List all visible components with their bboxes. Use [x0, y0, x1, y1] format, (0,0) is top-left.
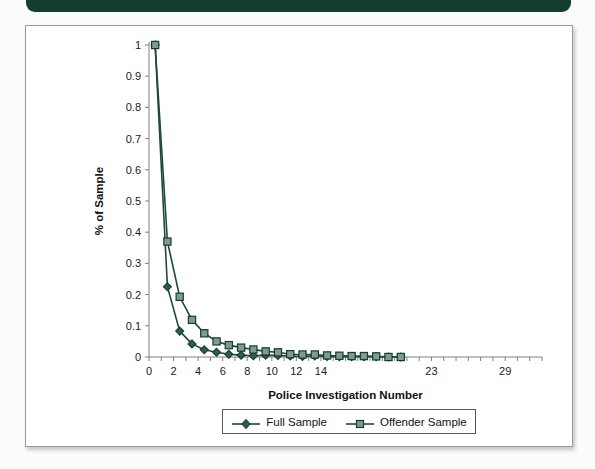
- x-tick-label: 6: [220, 365, 226, 377]
- data-point-marker: [176, 293, 183, 300]
- data-point-marker: [299, 351, 306, 358]
- y-axis-ticks: 00.10.20.30.40.50.60.70.80.91: [126, 39, 149, 363]
- header-accent-bar: [26, 0, 571, 12]
- data-point-marker: [237, 351, 245, 359]
- y-tick-label: 0.1: [126, 320, 141, 332]
- data-point-marker: [323, 352, 330, 359]
- y-tick-label: 0.8: [126, 101, 141, 113]
- data-point-marker: [373, 353, 380, 360]
- data-point-marker: [213, 338, 220, 345]
- data-point-marker: [200, 346, 208, 354]
- data-point-marker: [213, 348, 221, 356]
- data-point-marker: [201, 330, 208, 337]
- x-tick-label: 23: [425, 365, 437, 377]
- series-line-offender-sample: [155, 45, 401, 357]
- x-tick-label: 10: [266, 365, 278, 377]
- x-tick-label: 2: [171, 365, 177, 377]
- data-point-marker: [188, 316, 195, 323]
- y-tick-label: 0: [135, 351, 141, 363]
- x-axis-title: Police Investigation Number: [268, 389, 423, 401]
- x-tick-label: 29: [499, 365, 511, 377]
- x-tick-label: 4: [195, 365, 201, 377]
- data-point-marker: [385, 353, 392, 360]
- data-point-marker: [397, 353, 404, 360]
- data-point-marker: [274, 349, 281, 356]
- data-point-marker: [336, 352, 343, 359]
- y-tick-label: 0.5: [126, 195, 141, 207]
- legend-item-offender-sample: Offender Sample: [345, 416, 467, 428]
- y-tick-label: 0.3: [126, 257, 141, 269]
- y-tick-label: 0.9: [126, 70, 141, 82]
- data-point-marker: [225, 342, 232, 349]
- series-line-full-sample: [155, 45, 401, 357]
- x-tick-label: 12: [290, 365, 302, 377]
- x-axis-ticks: 024681012142329: [146, 357, 542, 377]
- data-point-marker: [360, 352, 367, 359]
- data-point-marker: [152, 41, 159, 48]
- chart-legend: Full Sample Offender Sample: [222, 409, 476, 434]
- data-point-marker: [287, 351, 294, 358]
- data-point-marker: [238, 344, 245, 351]
- data-point-marker: [348, 352, 355, 359]
- data-point-marker: [164, 238, 171, 245]
- legend-item-full-sample: Full Sample: [231, 416, 327, 428]
- x-tick-label: 0: [146, 365, 152, 377]
- chart-card: 00.10.20.30.40.50.60.70.80.91 0246810121…: [25, 25, 573, 447]
- y-axis-title: % of Sample: [93, 167, 105, 235]
- data-point-marker: [311, 351, 318, 358]
- y-tick-label: 0.7: [126, 133, 141, 145]
- y-tick-label: 0.2: [126, 289, 141, 301]
- y-tick-label: 0.6: [126, 164, 141, 176]
- legend-label-offender-sample: Offender Sample: [380, 416, 467, 428]
- x-tick-label: 14: [315, 365, 327, 377]
- x-tick-label: 8: [244, 365, 250, 377]
- data-point-marker: [250, 346, 257, 353]
- line-chart: 00.10.20.30.40.50.60.70.80.91 0246810121…: [26, 26, 572, 446]
- legend-marker-square-icon: [345, 416, 375, 428]
- legend-label-full-sample: Full Sample: [266, 416, 327, 428]
- y-tick-label: 1: [135, 39, 141, 51]
- legend-marker-diamond-icon: [231, 416, 261, 428]
- series-group: [151, 41, 405, 361]
- data-point-marker: [163, 283, 171, 291]
- data-point-marker: [262, 348, 269, 355]
- y-tick-label: 0.4: [126, 226, 141, 238]
